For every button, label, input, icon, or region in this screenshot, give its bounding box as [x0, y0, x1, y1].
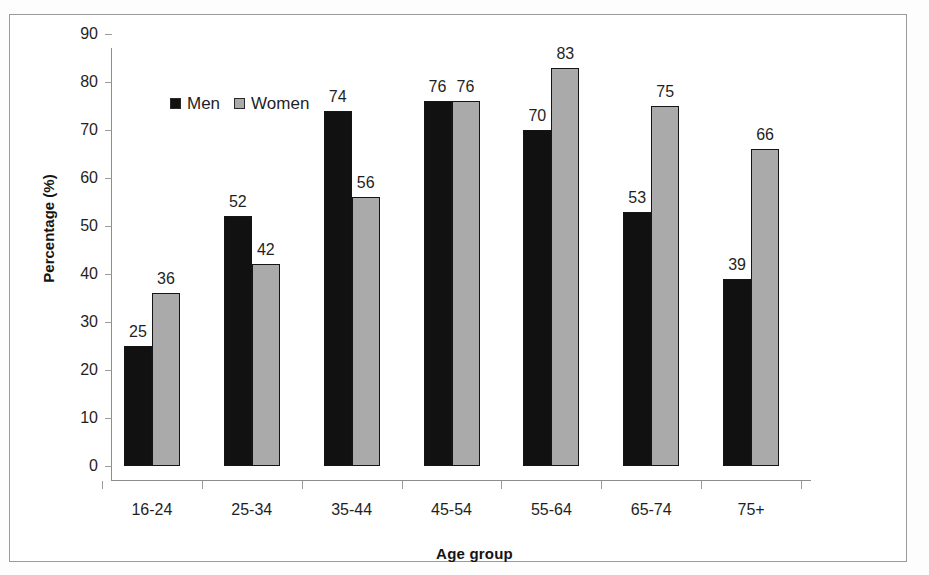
bar-men-45-54 — [424, 101, 452, 466]
bar-value-label: 75 — [640, 84, 690, 100]
bar-men-35-44 — [324, 111, 352, 466]
x-tick-mark — [801, 481, 802, 489]
bar-value-label: 56 — [341, 175, 391, 191]
bar-value-label: 83 — [540, 46, 590, 62]
legend-entry-women: Women — [234, 95, 309, 112]
x-tick-mark — [302, 481, 303, 489]
bar-men-75+ — [723, 279, 751, 466]
bar-men-16-24 — [124, 346, 152, 466]
legend-swatch-women-icon — [234, 98, 245, 109]
chart-figure: 0102030405060708090 16-2425-3435-4445-54… — [0, 0, 929, 575]
legend-label-men: Men — [187, 95, 220, 112]
bar-value-label: 66 — [740, 127, 790, 143]
bar-women-35-44 — [352, 197, 380, 466]
bar-value-label: 36 — [141, 271, 191, 287]
x-tick-mark — [501, 481, 502, 489]
x-axis-line — [111, 480, 811, 481]
bar-men-55-64 — [523, 130, 551, 466]
y-tick-label: 80 — [54, 74, 98, 90]
bar-women-55-64 — [551, 68, 579, 466]
legend-entry-men: Men — [170, 95, 220, 112]
legend-label-women: Women — [251, 95, 309, 112]
y-tick-mark — [105, 466, 112, 467]
y-tick-label: 0 — [54, 458, 98, 474]
y-tick-label: 30 — [54, 314, 98, 330]
chart-legend: Men Women — [170, 95, 309, 112]
bar-women-25-34 — [252, 264, 280, 466]
bar-women-65-74 — [651, 106, 679, 466]
x-category-label-75+: 75+ — [691, 502, 811, 518]
x-tick-mark — [601, 481, 602, 489]
figure-frame: 0102030405060708090 16-2425-3435-4445-54… — [9, 14, 907, 562]
legend-swatch-men-icon — [170, 98, 181, 109]
bar-value-label: 52 — [213, 194, 263, 210]
y-tick-label: 90 — [54, 26, 98, 42]
y-tick-label: 50 — [54, 218, 98, 234]
y-tick-label: 10 — [54, 410, 98, 426]
x-tick-mark — [202, 481, 203, 489]
y-tick-label: 20 — [54, 362, 98, 378]
y-tick-label: 40 — [54, 266, 98, 282]
bar-women-16-24 — [152, 293, 180, 466]
x-tick-mark — [402, 481, 403, 489]
y-tick-label: 60 — [54, 170, 98, 186]
y-axis-title: Percentage (%) — [40, 129, 57, 329]
bar-value-label: 74 — [313, 89, 363, 105]
bar-value-label: 42 — [241, 242, 291, 258]
bar-men-65-74 — [623, 212, 651, 466]
bar-value-label: 76 — [441, 79, 491, 95]
y-tick-label: 70 — [54, 122, 98, 138]
bar-women-75+ — [751, 149, 779, 466]
x-tick-mark — [102, 481, 103, 489]
bar-women-45-54 — [452, 101, 480, 466]
x-tick-mark — [701, 481, 702, 489]
x-axis-title: Age group — [10, 545, 929, 562]
